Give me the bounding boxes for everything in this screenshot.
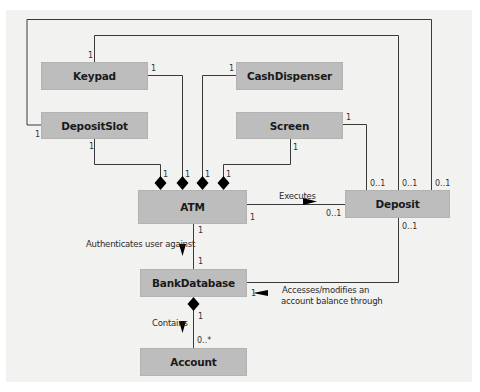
class-depositslot[interactable]: DepositSlot	[41, 112, 148, 139]
multiplicity: 0..*	[197, 336, 211, 345]
multiplicity: 0..1	[326, 209, 341, 218]
association-executes: Executes	[279, 191, 316, 202]
multiplicity: 1	[89, 142, 94, 151]
multiplicity: 1	[198, 226, 203, 235]
multiplicity: 1	[35, 130, 40, 139]
multiplicity: 0..1	[370, 179, 385, 188]
line-cashdispenser-atm	[203, 76, 237, 179]
class-deposit[interactable]: Deposit	[345, 190, 450, 218]
multiplicity: 1	[226, 170, 231, 179]
class-cashdispenser[interactable]: CashDispenser	[236, 62, 343, 90]
association-accesses-line1: Accesses/modifies an	[282, 285, 369, 296]
multiplicity: 0..1	[402, 179, 417, 188]
class-name: BankDatabase	[152, 277, 235, 289]
class-account[interactable]: Account	[140, 348, 247, 376]
multiplicity: 1	[205, 170, 210, 179]
class-screen[interactable]: Screen	[236, 112, 343, 139]
multiplicity: 1	[250, 213, 255, 222]
class-keypad[interactable]: Keypad	[41, 62, 148, 90]
multiplicity: 0..1	[435, 179, 450, 188]
class-name: Keypad	[73, 70, 116, 82]
line-screen-deposit	[343, 125, 367, 191]
multiplicity: 1	[185, 170, 190, 179]
multiplicity: 1	[346, 113, 351, 122]
class-name: Deposit	[375, 198, 419, 210]
line-deposit-bankdatabase	[247, 218, 399, 283]
diamond-icon	[188, 297, 200, 311]
class-atm[interactable]: ATM	[138, 190, 247, 224]
multiplicity: 1	[163, 170, 168, 179]
association-accesses-line2: account balance through	[281, 296, 383, 307]
line-screen-atm	[224, 139, 291, 178]
multiplicity: 0..1	[402, 222, 417, 231]
class-name: Account	[170, 356, 216, 368]
multiplicity: 1	[251, 289, 256, 298]
line-keypad-atm	[148, 76, 183, 179]
class-name: Screen	[270, 120, 309, 132]
class-name: DepositSlot	[61, 120, 128, 132]
multiplicity: 1	[88, 51, 93, 60]
class-name: CashDispenser	[247, 70, 332, 82]
line-depositslot-atm	[95, 139, 161, 178]
multiplicity: 1	[198, 312, 203, 321]
association-authenticates: Authenticates user against	[86, 239, 195, 250]
multiplicity: 1	[151, 64, 156, 73]
class-name: ATM	[180, 201, 204, 213]
multiplicity: 1	[198, 257, 203, 266]
class-bankdatabase[interactable]: BankDatabase	[140, 269, 247, 297]
association-contains: Contains	[152, 318, 188, 329]
multiplicity: 1	[293, 143, 298, 152]
multiplicity: 1	[229, 64, 234, 73]
